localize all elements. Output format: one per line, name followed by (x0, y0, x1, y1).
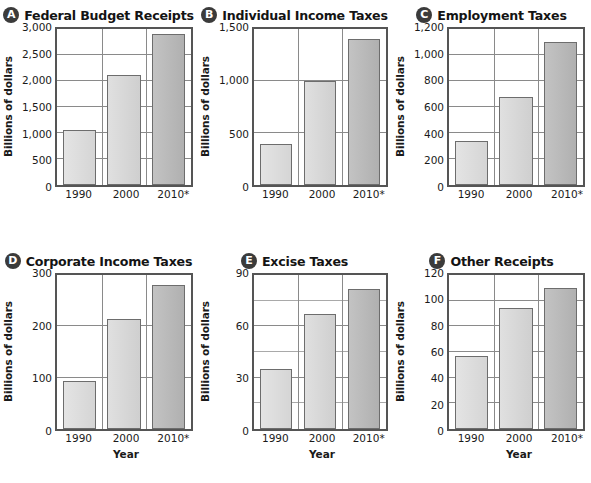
x-axis-title-f: Year (447, 448, 591, 460)
category-separator (494, 29, 495, 185)
y-tick-label: 200 (32, 320, 52, 332)
chart-panel-d: D Corporate Income Taxes Billions of dol… (0, 222, 197, 483)
y-tick-label: 100 (424, 293, 444, 305)
chart-title-f: Other Receipts (450, 254, 553, 269)
bar-1990 (63, 381, 96, 429)
y-axis-ticks-c: 02004006008001,0001,200 (407, 27, 447, 187)
bar-1990 (260, 369, 293, 429)
y-tick-label: 30 (236, 372, 249, 384)
x-tick-label: 2000 (309, 432, 336, 444)
plot-area-f (447, 273, 585, 431)
plot-area-d (55, 273, 193, 431)
x-tick-label: 2000 (113, 188, 140, 200)
y-tick-label: 1,500 (22, 101, 52, 113)
y-tick-label: 300 (32, 267, 52, 279)
y-axis-label-f: Billions of dollars (392, 273, 407, 431)
chart-body-f: Billions of dollars 020406080100120 (392, 273, 591, 431)
y-tick-label: 1,200 (414, 21, 444, 33)
y-tick-label: 1,000 (414, 48, 444, 60)
y-tick-label: 2,500 (22, 48, 52, 60)
chart-body-d: Billions of dollars 0100200300 (0, 273, 197, 431)
bar-2000 (499, 308, 532, 429)
x-axis-labels-f: 199020002010* (447, 431, 591, 447)
y-tick-label: 0 (45, 425, 52, 437)
x-axis-labels-e: 199020002010* (252, 431, 392, 447)
category-separator (146, 29, 147, 185)
x-tick-label: 2010* (353, 188, 385, 200)
bar-2000 (304, 314, 337, 429)
x-axis-labels-d: 199020002010* (55, 431, 197, 447)
y-tick-label: 0 (437, 425, 444, 437)
x-tick-label: 2000 (506, 432, 533, 444)
bar-1990 (260, 144, 293, 185)
bar-2000 (499, 97, 532, 185)
category-separator (298, 29, 299, 185)
y-axis-ticks-e: 0306090 (212, 273, 252, 431)
y-tick-label: 800 (424, 74, 444, 86)
chart-panel-f: F Other Receipts Billions of dollars 020… (392, 222, 591, 483)
bar-2000 (107, 75, 140, 185)
x-tick-label: 2010* (551, 432, 583, 444)
y-tick-label: 2,000 (22, 74, 52, 86)
bar-2010 (152, 34, 185, 185)
x-tick-label: 2000 (113, 432, 140, 444)
chart-header-f: F Other Receipts (392, 246, 591, 273)
panel-badge-a: A (3, 7, 19, 23)
x-axis-title-d: Year (55, 448, 197, 460)
panel-badge-d: D (5, 253, 21, 269)
x-axis-title-e: Year (252, 448, 392, 460)
bar-2000 (304, 81, 337, 185)
plot-area-e (252, 273, 388, 431)
chart-header-e: E Excise Taxes (197, 246, 392, 273)
x-tick-label: 2010* (551, 188, 583, 200)
y-tick-label: 500 (229, 128, 249, 140)
y-tick-label: 1,500 (219, 21, 249, 33)
plot-area-a (55, 27, 193, 187)
chart-panel-b: B Individual Income Taxes Billions of do… (197, 0, 392, 222)
x-axis-labels-b: 199020002010* (252, 187, 392, 203)
y-axis-label-d: Billions of dollars (0, 273, 15, 431)
chart-body-c: Billions of dollars 02004006008001,0001,… (392, 27, 591, 187)
category-separator (538, 275, 539, 429)
y-tick-label: 0 (242, 181, 249, 193)
y-tick-label: 100 (32, 372, 52, 384)
bar-2010 (348, 289, 381, 429)
category-separator (342, 29, 343, 185)
x-tick-label: 1990 (262, 188, 289, 200)
y-axis-label-a: Billions of dollars (0, 27, 15, 187)
x-axis-labels-c: 199020002010* (447, 187, 591, 203)
category-separator (146, 275, 147, 429)
x-tick-label: 1990 (65, 188, 92, 200)
y-axis-ticks-b: 05001,0001,500 (212, 27, 252, 187)
x-tick-label: 2000 (309, 188, 336, 200)
y-tick-label: 400 (424, 128, 444, 140)
category-separator (102, 275, 103, 429)
x-tick-label: 1990 (65, 432, 92, 444)
x-tick-label: 1990 (458, 188, 485, 200)
y-tick-label: 0 (242, 425, 249, 437)
y-tick-label: 1,000 (22, 128, 52, 140)
chart-body-b: Billions of dollars 05001,0001,500 (197, 27, 392, 187)
y-tick-label: 40 (431, 372, 444, 384)
panel-badge-b: B (201, 7, 217, 23)
bar-2000 (107, 319, 140, 429)
y-axis-label-c: Billions of dollars (392, 27, 407, 187)
chart-body-a: Billions of dollars 05001,0001,5002,0002… (0, 27, 197, 187)
x-tick-label: 2010* (353, 432, 385, 444)
chart-title-e: Excise Taxes (262, 254, 348, 269)
y-axis-label-e: Billions of dollars (197, 273, 212, 431)
chart-panel-e: E Excise Taxes Billions of dollars 03060… (197, 222, 392, 483)
y-axis-ticks-a: 05001,0001,5002,0002,5003,000 (15, 27, 55, 187)
x-tick-label: 1990 (458, 432, 485, 444)
x-tick-label: 2000 (506, 188, 533, 200)
category-separator (102, 29, 103, 185)
y-tick-label: 600 (424, 101, 444, 113)
chart-title-c: Employment Taxes (437, 8, 566, 23)
bar-2010 (544, 42, 577, 185)
y-tick-label: 3,000 (22, 21, 52, 33)
chart-sheet: A Federal Budget Receipts Billions of do… (0, 0, 591, 483)
category-separator (538, 29, 539, 185)
bar-1990 (455, 141, 488, 185)
plot-area-c (447, 27, 585, 187)
y-tick-label: 120 (424, 267, 444, 279)
